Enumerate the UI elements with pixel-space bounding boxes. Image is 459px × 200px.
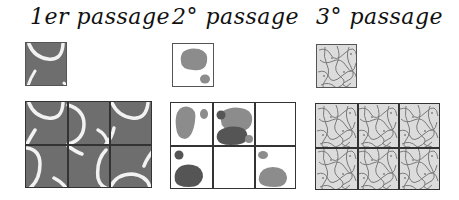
pass-2-tiled-grid (170, 102, 296, 189)
pass-1-single-tile (25, 42, 67, 86)
pass-3-tiled-grid (315, 103, 440, 190)
title-pass-2: 2° passage (172, 4, 299, 29)
noise-texture-pattern-icon (317, 45, 357, 88)
pass-2-single-tile (172, 43, 214, 87)
grey-blob-pattern-icon (173, 44, 214, 87)
pass-3-single-tile (316, 44, 357, 88)
title-pass-1: 1er passage (30, 4, 170, 29)
grid-line-horizontal (26, 144, 151, 146)
pass-1-tiled-grid (25, 101, 152, 188)
grid-line-horizontal (171, 145, 295, 147)
white-stroke-pattern-icon (26, 43, 67, 86)
grid-line-horizontal (316, 147, 439, 149)
title-pass-3: 3° passage (316, 4, 443, 29)
